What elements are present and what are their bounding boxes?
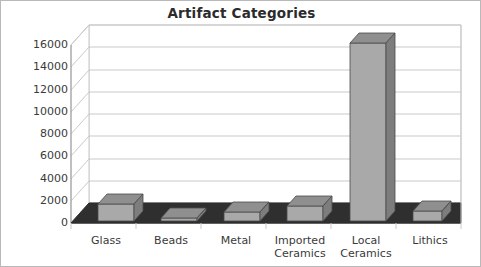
chart-figure: Artifact Categories 0 2000 4000 6000 800… (0, 0, 481, 267)
x-axis-tick-label-lithics: Lithics (397, 235, 463, 248)
bar-beads[interactable] (161, 208, 206, 221)
plot-area (1, 1, 481, 267)
x-axis-tick-label-local-ceramics: Local Ceramics (333, 235, 399, 260)
bar-local-ceramics[interactable] (350, 33, 395, 221)
bar-glass[interactable] (98, 194, 143, 221)
bar-metal[interactable] (224, 202, 269, 221)
x-axis-tick-label-metal: Metal (203, 235, 269, 248)
x-axis-tick-label-beads: Beads (138, 235, 204, 248)
bar-imported-ceramics[interactable] (287, 196, 332, 221)
x-axis-tick-label-imported-ceramics: Imported Ceramics (265, 235, 335, 260)
x-axis-tick-label-glass: Glass (73, 235, 139, 248)
x-axis-ticks (71, 223, 461, 229)
